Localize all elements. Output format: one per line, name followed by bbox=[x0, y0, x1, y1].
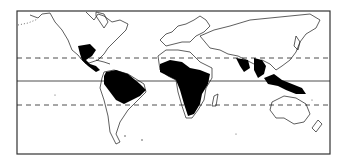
japan-outline bbox=[294, 36, 300, 50]
island-dot bbox=[311, 99, 312, 100]
north-america-outline bbox=[30, 12, 128, 64]
island-dot bbox=[54, 94, 55, 95]
island-dot bbox=[235, 133, 236, 134]
shaded-africa bbox=[160, 60, 210, 116]
europe-outline bbox=[160, 16, 210, 46]
shaded-south-america bbox=[104, 70, 146, 104]
madagascar-outline bbox=[212, 94, 218, 106]
australia-outline bbox=[270, 96, 310, 124]
island-dot bbox=[39, 57, 40, 58]
island-dot bbox=[124, 135, 126, 137]
world-map bbox=[0, 0, 346, 165]
island-dot bbox=[141, 139, 143, 141]
dotted-arctic-path bbox=[18, 19, 38, 25]
shaded-south-asia bbox=[236, 58, 250, 72]
shaded-indonesia-new-guinea bbox=[264, 74, 306, 94]
caribbean-outline bbox=[96, 60, 110, 64]
new-zealand-outline bbox=[312, 120, 322, 132]
